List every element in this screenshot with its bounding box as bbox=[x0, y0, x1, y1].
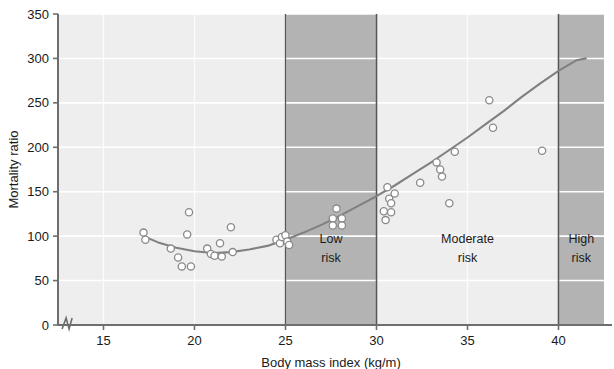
svg-text:High: High bbox=[568, 232, 594, 246]
risk-band-low-risk bbox=[286, 14, 377, 325]
data-point bbox=[417, 179, 424, 186]
data-point bbox=[338, 222, 345, 229]
x-tick-label-20: 20 bbox=[187, 333, 201, 348]
data-point bbox=[216, 240, 223, 247]
y-tick-label-50: 50 bbox=[35, 273, 49, 288]
data-point bbox=[218, 253, 225, 260]
data-point bbox=[338, 215, 345, 222]
data-point bbox=[211, 252, 218, 259]
svg-text:Moderate: Moderate bbox=[441, 232, 494, 246]
data-point bbox=[229, 249, 236, 256]
data-point bbox=[446, 200, 453, 207]
y-tick-label-100: 100 bbox=[27, 229, 49, 244]
x-tick-label-30: 30 bbox=[369, 333, 383, 348]
data-point bbox=[437, 166, 444, 173]
svg-text:Low: Low bbox=[320, 232, 344, 246]
data-point bbox=[184, 231, 191, 238]
data-point bbox=[382, 217, 389, 224]
x-tick-label-40: 40 bbox=[551, 333, 565, 348]
y-tick-label-0: 0 bbox=[42, 318, 49, 333]
data-point bbox=[187, 263, 194, 270]
y-tick-label-200: 200 bbox=[27, 140, 49, 155]
data-point bbox=[489, 124, 496, 131]
data-point bbox=[388, 209, 395, 216]
svg-text:risk: risk bbox=[572, 251, 592, 265]
data-point bbox=[227, 224, 234, 231]
data-point bbox=[175, 254, 182, 261]
data-point bbox=[167, 245, 174, 252]
data-point bbox=[380, 208, 387, 215]
x-axis-title: Body mass index (kg/m) bbox=[261, 355, 400, 369]
x-tick-label-15: 15 bbox=[96, 333, 110, 348]
y-tick-label-150: 150 bbox=[27, 184, 49, 199]
data-point bbox=[286, 241, 293, 248]
data-point bbox=[438, 173, 445, 180]
data-point bbox=[140, 229, 147, 236]
y-axis-title: Mortality ratio bbox=[6, 130, 21, 208]
x-tick-label-25: 25 bbox=[278, 333, 292, 348]
data-point bbox=[451, 148, 458, 155]
data-point bbox=[539, 147, 546, 154]
y-tick-label-300: 300 bbox=[27, 51, 49, 66]
data-point bbox=[329, 222, 336, 229]
data-point bbox=[486, 97, 493, 104]
y-tick-label-250: 250 bbox=[27, 95, 49, 110]
data-point bbox=[384, 184, 391, 191]
data-point bbox=[142, 236, 149, 243]
svg-text:risk: risk bbox=[321, 251, 341, 265]
data-point bbox=[433, 159, 440, 166]
svg-text:risk: risk bbox=[458, 251, 478, 265]
data-point bbox=[391, 190, 398, 197]
data-point bbox=[178, 263, 185, 270]
data-point bbox=[388, 200, 395, 207]
y-tick-label-350: 350 bbox=[27, 7, 49, 22]
mortality-bmi-scatter-chart: 050100150200250300350152025303540Body ma… bbox=[0, 0, 614, 369]
risk-band-high-risk bbox=[559, 14, 605, 325]
x-tick-label-35: 35 bbox=[460, 333, 474, 348]
chart-container: 050100150200250300350152025303540Body ma… bbox=[0, 0, 614, 369]
data-point bbox=[329, 215, 336, 222]
data-point bbox=[185, 209, 192, 216]
data-point bbox=[333, 205, 340, 212]
